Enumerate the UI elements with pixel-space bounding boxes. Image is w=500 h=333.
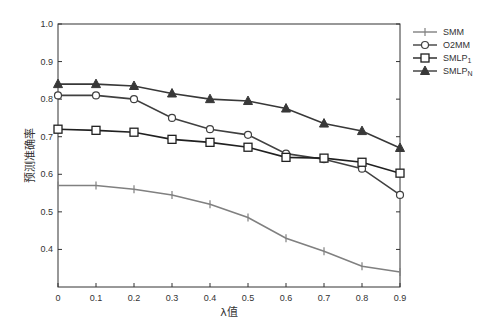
square-marker-icon [282, 153, 290, 161]
y-axis-title: 预测准确率 [23, 128, 37, 183]
legend-label: O2MM [443, 40, 470, 50]
plot-series [54, 79, 405, 276]
series-line [58, 84, 400, 148]
y-tick-label: 0.6 [40, 169, 53, 179]
circle-marker-icon [245, 131, 252, 138]
legend-item: SMM [413, 27, 464, 37]
square-marker-icon [168, 135, 176, 143]
x-tick-label: 0.4 [204, 293, 217, 303]
square-marker-icon [244, 143, 252, 151]
plot-frame [58, 24, 400, 287]
x-tick-label: 0.5 [242, 293, 255, 303]
square-marker-icon [358, 158, 366, 166]
circle-marker-icon [207, 126, 214, 133]
x-tick-label: 0.3 [166, 293, 179, 303]
y-tick-label: 0.9 [40, 57, 53, 67]
square-marker-icon [421, 54, 429, 62]
x-tick-label: 0.1 [90, 293, 103, 303]
square-marker-icon [206, 138, 214, 146]
y-tick-label: 0.4 [40, 244, 53, 254]
legend-label: SMLPN [443, 66, 473, 77]
legend-item: SMLP1 [413, 53, 472, 64]
legend-label: SMLP1 [443, 53, 472, 64]
circle-marker-icon [131, 96, 138, 103]
circle-marker-icon [93, 92, 100, 99]
x-axis-title: λ值 [220, 306, 238, 319]
legend-subscript: N [468, 70, 473, 77]
line-chart: 00.10.20.30.40.50.60.70.80.90.40.50.60.7… [0, 0, 500, 333]
x-tick-label: 0.7 [318, 293, 331, 303]
circle-marker-icon [55, 92, 62, 99]
x-tick-label: 0.2 [128, 293, 141, 303]
series-line [58, 186, 400, 272]
legend-label: SMM [443, 27, 464, 37]
x-tick-label: 0.8 [356, 293, 369, 303]
y-tick-label: 1.0 [40, 19, 53, 29]
square-marker-icon [54, 125, 62, 133]
triangle-marker-icon [421, 66, 430, 75]
legend: SMMO2MMSMLP1SMLPN [413, 27, 473, 77]
square-marker-icon [92, 126, 100, 134]
y-tick-label: 0.5 [40, 207, 53, 217]
legend-item: O2MM [413, 40, 470, 50]
y-tick-label: 0.8 [40, 94, 53, 104]
x-tick-label: 0.9 [394, 293, 407, 303]
circle-marker-icon [169, 114, 176, 121]
series-smlp1 [54, 125, 404, 177]
series-smm [58, 182, 400, 276]
circle-marker-icon [397, 191, 404, 198]
series-smlpn [54, 79, 405, 151]
x-tick-label: 0 [55, 293, 60, 303]
legend-item: SMLPN [413, 66, 473, 77]
square-marker-icon [396, 169, 404, 177]
series-line [58, 129, 400, 173]
square-marker-icon [130, 128, 138, 136]
circle-marker-icon [422, 42, 429, 49]
y-tick-label: 0.7 [40, 132, 53, 142]
x-tick-label: 0.6 [280, 293, 293, 303]
legend-subscript: 1 [468, 57, 472, 64]
square-marker-icon [320, 154, 328, 162]
